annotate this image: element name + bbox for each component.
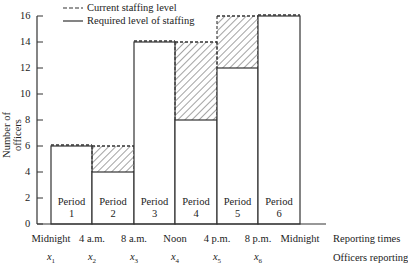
required-bar [258,16,300,224]
period-number: 5 [217,208,258,220]
officers-reporting-var: x4 [155,252,195,265]
y-tick-label: 12 [20,63,31,74]
period-word: Period [134,196,175,208]
var-subscript: 4 [176,257,180,265]
period-number: 2 [92,208,134,220]
y-tick-label: 10 [20,89,31,100]
officers-reporting-var: x1 [31,252,71,265]
var-subscript: 2 [93,257,97,265]
var-subscript: 3 [135,257,139,265]
excess-hatch [92,146,134,172]
period-number: 1 [51,208,92,220]
period-word: Period [258,196,300,208]
var-subscript: 6 [259,257,263,265]
var-subscript: 5 [218,257,222,265]
legend-current-label: Current staffing level [87,3,177,14]
y-tick-label: 8 [25,115,30,126]
period-label: Period2 [92,196,134,220]
excess-hatch [217,16,258,68]
period-label: Period6 [258,196,300,220]
reporting-time-label: Midnight [260,234,340,245]
y-tick-label: 2 [25,193,30,204]
period-label: Period5 [217,196,258,220]
officers-reporting-var: x6 [238,252,278,265]
y-tick-label: 0 [25,219,30,230]
period-word: Period [217,196,258,208]
y-tick-label: 4 [25,167,30,178]
officers-reporting-label: Officers reporting [333,253,408,264]
period-word: Period [51,196,92,208]
y-axis-label: Number of officers [1,95,23,175]
legend-required-label: Required level of staffing [87,16,194,27]
excess-hatch [175,42,217,120]
period-number: 3 [134,208,175,220]
period-label: Period3 [134,196,175,220]
officers-reporting-var: x5 [197,252,237,265]
period-word: Period [175,196,217,208]
period-number: 6 [258,208,300,220]
y-tick-label: 16 [20,11,31,22]
period-word: Period [92,196,134,208]
y-tick-label: 14 [20,37,31,48]
officers-reporting-var: x3 [114,252,154,265]
officers-reporting-var: x2 [72,252,112,265]
period-number: 4 [175,208,217,220]
y-tick-label: 6 [25,141,30,152]
reporting-times-label: Reporting times [333,234,400,245]
period-label: Period4 [175,196,217,220]
var-subscript: 1 [52,257,56,265]
period-label: Period1 [51,196,92,220]
